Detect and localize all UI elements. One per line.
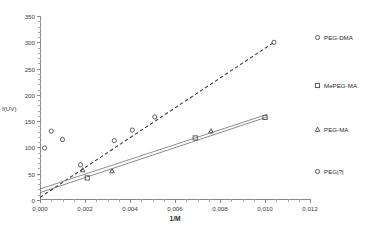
x-tick-label: 0,000 [32, 205, 47, 212]
plot-area: 050100150200250300350 0,0000,0020,0040,0… [40, 16, 310, 200]
legend-label: MePEG-MA [324, 82, 357, 89]
y-tick-label: 150 [25, 118, 35, 125]
x-axis-title: 1/M [170, 215, 181, 222]
x-tick-mark [310, 199, 311, 203]
legend-label: PEG|?| [324, 168, 344, 175]
x-tick-label: 0,008 [212, 205, 227, 212]
trend-line [40, 114, 267, 189]
triangle-marker-icon [314, 126, 321, 133]
series-peg [42, 129, 64, 150]
legend-item-peg-ma[interactable]: PEG-MA [314, 126, 348, 133]
y-tick-label: 0 [32, 197, 35, 204]
chart-legend: PEG-DMAMePEG-MAPEG-MAPEG|?| [314, 16, 374, 176]
data-point [81, 168, 85, 172]
y-tick-label: 250 [25, 65, 35, 72]
circle-marker-icon [314, 34, 321, 41]
series-mepeg-ma [40, 115, 267, 192]
series-peg-ma [40, 114, 267, 189]
data-point [60, 137, 64, 141]
data-point [42, 146, 46, 150]
y-tick-label: 50 [28, 170, 35, 177]
data-point [153, 115, 157, 119]
y-tick-label: 200 [25, 91, 35, 98]
series-peg-dma [40, 40, 276, 197]
data-point [78, 163, 82, 167]
x-tick-label: 0,002 [77, 205, 92, 212]
data-point [112, 138, 116, 142]
y-axis-title: f(UV) [2, 105, 16, 112]
trend-line [40, 42, 274, 197]
square-marker-icon [314, 82, 321, 89]
legend-item-peg[interactable]: PEG|?| [314, 168, 344, 175]
legend-item-peg-dma[interactable]: PEG-DMA [314, 34, 353, 41]
legend-item-mepeg-ma[interactable]: MePEG-MA [314, 82, 357, 89]
data-point [130, 128, 134, 132]
data-point [272, 40, 276, 44]
x-tick-label: 0,012 [302, 205, 317, 212]
y-tick-label: 100 [25, 144, 35, 151]
legend-label: PEG-MA [324, 126, 348, 133]
data-point [49, 129, 53, 133]
y-tick-label: 300 [25, 39, 35, 46]
x-tick-label: 0,006 [167, 205, 182, 212]
series-layer [40, 16, 310, 200]
trend-line [40, 117, 267, 193]
data-point [209, 129, 213, 133]
x-tick-label: 0,010 [257, 205, 272, 212]
circle-marker-icon [314, 168, 321, 175]
x-tick-label: 0,004 [122, 205, 137, 212]
y-tick-label: 350 [25, 13, 35, 20]
legend-label: PEG-DMA [324, 34, 353, 41]
chart-canvas: 050100150200250300350 0,0000,0020,0040,0… [0, 0, 374, 234]
